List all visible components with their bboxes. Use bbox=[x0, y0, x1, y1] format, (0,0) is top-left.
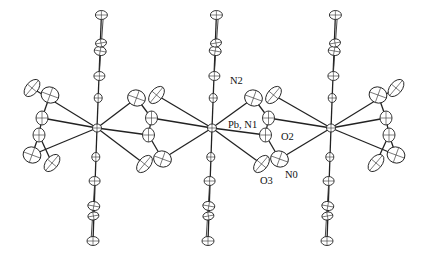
atom-o bbox=[385, 144, 407, 165]
atom-n bbox=[89, 177, 100, 186]
atom-n bbox=[204, 177, 215, 186]
atom-o bbox=[367, 84, 389, 105]
atom-n bbox=[151, 148, 173, 169]
atom-o bbox=[39, 84, 61, 105]
atom-c bbox=[380, 111, 392, 125]
atom-o bbox=[209, 94, 217, 103]
atom-c bbox=[87, 211, 99, 221]
atom-c bbox=[321, 237, 333, 246]
atom-n bbox=[209, 72, 220, 81]
atom-o bbox=[207, 153, 215, 162]
atom-o bbox=[250, 152, 272, 175]
atom-o bbox=[92, 153, 100, 162]
atom-pb bbox=[327, 124, 336, 132]
atom-c bbox=[321, 201, 334, 212]
label-n0: N0 bbox=[285, 169, 298, 180]
label-pb-n1: Pb, N1 bbox=[228, 119, 257, 130]
atom-n bbox=[268, 148, 290, 169]
atom-c bbox=[95, 38, 107, 48]
atom-o bbox=[242, 87, 264, 108]
atom-c bbox=[329, 11, 341, 20]
label-o3: O3 bbox=[260, 175, 273, 186]
atom-o bbox=[365, 151, 387, 174]
ortep-diagram: N2 Pb, N1 O2 O3 N0 bbox=[0, 0, 428, 254]
atom-c bbox=[36, 111, 48, 125]
atom-o bbox=[328, 94, 336, 103]
atom-o bbox=[262, 83, 284, 106]
atom-c bbox=[202, 211, 214, 221]
atom-c bbox=[146, 111, 158, 125]
atom-n bbox=[328, 72, 339, 81]
atom-c bbox=[210, 11, 222, 20]
atom-o bbox=[125, 87, 147, 108]
atom-o bbox=[145, 83, 167, 106]
atom-o bbox=[94, 94, 102, 103]
atom-o bbox=[41, 151, 63, 174]
atom-c bbox=[260, 128, 272, 142]
atom-pb bbox=[208, 124, 217, 132]
atom-c bbox=[33, 128, 45, 142]
atom-o bbox=[326, 153, 334, 162]
atom-c bbox=[87, 201, 100, 212]
atom-c bbox=[202, 237, 214, 246]
label-o2: O2 bbox=[281, 131, 294, 142]
atom-c bbox=[143, 128, 155, 142]
atom-c bbox=[202, 201, 215, 212]
atom-c bbox=[95, 11, 107, 20]
atom-c bbox=[210, 38, 222, 48]
atom-o bbox=[133, 152, 155, 175]
atom-c bbox=[329, 38, 341, 48]
atom-c bbox=[263, 111, 275, 125]
atom-pb bbox=[93, 124, 102, 132]
atom-o bbox=[21, 76, 43, 99]
atom-o bbox=[21, 144, 43, 165]
atom-n bbox=[94, 72, 105, 81]
label-n2: N2 bbox=[230, 75, 243, 86]
atom-o bbox=[385, 76, 407, 99]
atom-c bbox=[321, 211, 333, 221]
atom-n bbox=[323, 177, 334, 186]
atom-c bbox=[383, 128, 395, 142]
atom-c bbox=[87, 237, 99, 246]
